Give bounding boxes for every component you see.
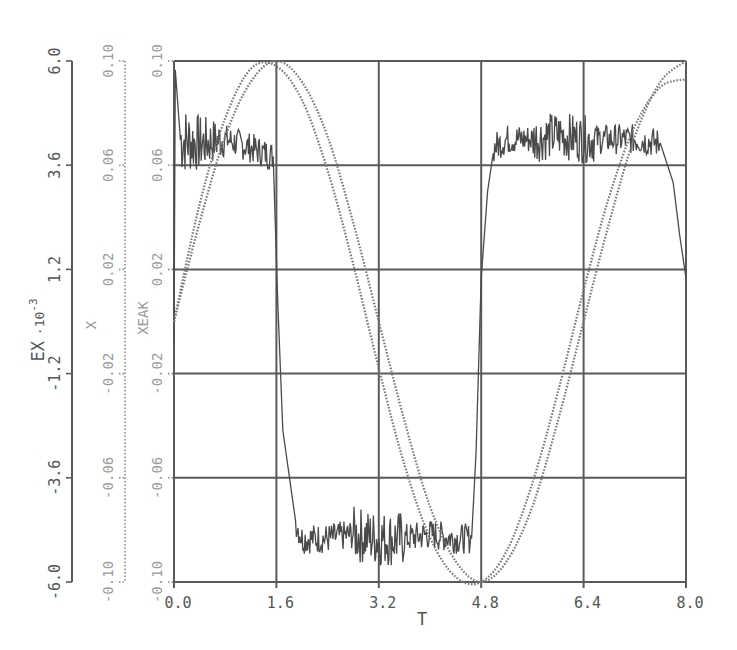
y-tick-label: -3.6 <box>46 460 64 496</box>
y-tick-label: 0.10 <box>149 44 165 78</box>
x-axis-label: T <box>417 609 427 629</box>
y-tick-label: 0.10 <box>100 44 116 78</box>
y-tick-label: -0.06 <box>100 457 116 499</box>
y-axes: -6.0-3.6-1.21.23.66.0EX·10-3-0.10-0.06-0… <box>27 44 174 603</box>
x-tick-label: 1.6 <box>267 594 294 612</box>
x-tick-label: 4.8 <box>472 594 499 612</box>
data-series <box>174 61 686 584</box>
x-tick-label: 0.0 <box>164 594 191 612</box>
y-tick-label: 3.6 <box>46 152 64 179</box>
y-tick-label: -0.02 <box>100 353 116 395</box>
x-tick-label: 3.2 <box>369 594 396 612</box>
y-tick-label: 0.02 <box>149 253 165 287</box>
y-axis-label: EX·10-3 <box>27 298 48 361</box>
y-tick-label: -6.0 <box>46 564 64 600</box>
series-ex <box>174 70 686 566</box>
y-axis-label: XEAK <box>135 301 151 335</box>
y-tick-label: -1.2 <box>46 356 64 392</box>
y-tick-label: 0.06 <box>100 148 116 182</box>
y-tick-label: -0.06 <box>149 457 165 499</box>
y-axis-label: X <box>83 320 99 329</box>
y-tick-label: 1.2 <box>46 256 64 283</box>
x-tick-label: 6.4 <box>574 594 601 612</box>
x-tick-label: 8.0 <box>676 594 703 612</box>
y-tick-label: 6.0 <box>46 47 64 74</box>
y-tick-label: -0.02 <box>149 353 165 395</box>
y-tick-label: -0.10 <box>100 561 116 603</box>
y-tick-label: 0.06 <box>149 148 165 182</box>
y-tick-label: 0.02 <box>100 253 116 287</box>
y-axis-x: -0.10-0.06-0.020.020.060.10X <box>83 44 125 603</box>
y-axis-xeak: -0.10-0.06-0.020.020.060.10XEAK <box>135 44 174 603</box>
x-axis: 0.01.63.24.86.48.0T <box>164 582 703 629</box>
y-tick-label: -0.10 <box>149 561 165 603</box>
y-axis-ex: -6.0-3.6-1.21.23.66.0EX·10-3 <box>27 47 72 600</box>
chart: -6.0-3.6-1.21.23.66.0EX·10-3-0.10-0.06-0… <box>0 0 737 650</box>
